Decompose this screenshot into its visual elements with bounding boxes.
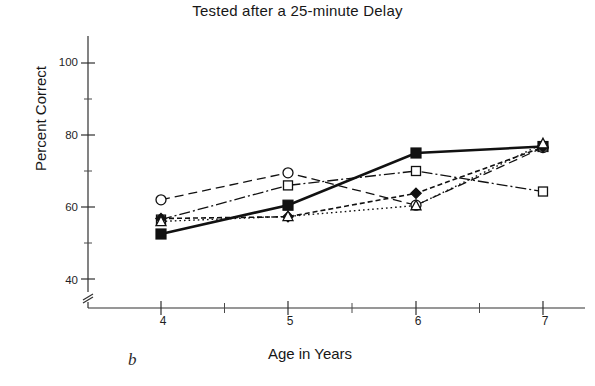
series-open-square-marker — [412, 167, 421, 176]
series-filled-diamond-marker — [411, 188, 421, 198]
series-lines — [161, 144, 543, 234]
series-open-square-marker — [284, 181, 293, 190]
series-filled-square-marker — [411, 148, 421, 158]
series-open-circle-line — [161, 148, 543, 206]
axis-break-icon — [83, 294, 93, 303]
series-filled-square-marker — [283, 200, 293, 210]
x-axis — [88, 301, 585, 315]
series-markers — [156, 138, 548, 239]
plot-area — [0, 0, 595, 386]
series-open-square-marker — [538, 187, 547, 196]
y-axis — [81, 36, 95, 308]
series-open-square-line — [161, 171, 543, 220]
series-filled-square-marker — [156, 229, 166, 239]
chart-figure: Tested after a 25-minute Delay Percent C… — [0, 0, 595, 386]
series-filled-square-line — [161, 147, 543, 234]
series-open-circle-marker — [156, 195, 166, 205]
series-open-circle-marker — [283, 168, 293, 178]
